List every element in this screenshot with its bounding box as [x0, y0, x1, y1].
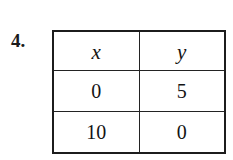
column-header-x-text: x — [92, 40, 101, 65]
table-header-row: x y — [53, 31, 225, 71]
cell-x-row2-value: 10 — [86, 121, 106, 144]
cell-x-row1: 0 — [53, 71, 139, 112]
xy-value-table: x y 0 5 10 0 — [52, 30, 226, 154]
cell-y-row2: 0 — [139, 112, 225, 154]
cell-x-row2: 10 — [53, 112, 139, 154]
cell-x-row1-value: 0 — [91, 80, 101, 103]
column-header-x: x — [53, 31, 139, 71]
cell-y-row1: 5 — [139, 71, 225, 112]
table-row: 10 0 — [53, 112, 225, 154]
problem-number-label: 4. — [11, 31, 25, 50]
cell-y-row2-value: 0 — [177, 121, 187, 144]
cell-y-row1-value: 5 — [177, 80, 187, 103]
worksheet-problem: 4. x y 0 5 — [0, 0, 233, 160]
column-header-y: y — [139, 31, 225, 71]
table-row: 0 5 — [53, 71, 225, 112]
column-header-y-text: y — [177, 40, 186, 65]
